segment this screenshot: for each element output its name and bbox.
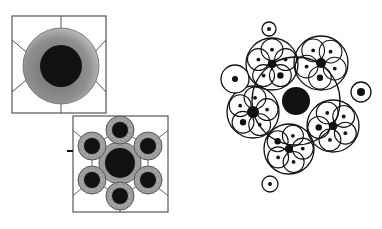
sub-market-dot	[253, 96, 257, 100]
sub-market-dot	[276, 155, 280, 159]
isolated-dot	[357, 88, 365, 96]
sub-market-dot	[256, 58, 260, 62]
sub-market-dot	[284, 58, 288, 62]
sub-market-dot	[258, 123, 262, 127]
top-square-panel	[12, 16, 106, 113]
central-dot	[282, 87, 310, 115]
isolated-dot	[267, 27, 271, 31]
sub-market-dot	[301, 147, 305, 151]
hex-group	[294, 36, 348, 90]
sub-market-dot	[265, 108, 269, 112]
sub-market-dot	[343, 131, 347, 135]
isolated-dot	[232, 76, 238, 82]
hex-group	[307, 100, 359, 152]
satellite-core-dot	[112, 188, 128, 204]
sub-market-dot	[262, 74, 266, 78]
sub-market-dot	[291, 134, 295, 138]
satellite-core-dot	[84, 138, 100, 154]
group-hub-dot	[247, 106, 259, 118]
satellite-core-dot	[84, 172, 100, 188]
center-core-dot	[105, 148, 135, 178]
sub-market-dot	[305, 65, 309, 69]
satellite-core-dot	[140, 138, 156, 154]
satellite-core-dot	[112, 122, 128, 138]
diagram-canvas	[0, 0, 382, 229]
circle-cluster-diagram	[221, 22, 371, 192]
sub-market-dot	[317, 75, 323, 81]
hex-group	[246, 38, 298, 90]
satellite-core-dot	[140, 172, 156, 188]
sub-market-dot	[277, 72, 283, 78]
sub-market-dot	[329, 50, 333, 54]
hex-group	[264, 124, 314, 174]
group-hub-dot	[268, 60, 276, 68]
sub-market-dot	[238, 104, 242, 108]
bottom-square-panel	[67, 116, 168, 212]
sub-market-dot	[274, 138, 280, 144]
group-hub-dot	[316, 58, 326, 68]
sub-market-dot	[316, 124, 322, 130]
group-hub-dot	[329, 122, 337, 130]
sub-market-dot	[342, 115, 346, 119]
sub-market-dot	[292, 160, 296, 164]
core-dot	[40, 45, 82, 87]
group-hub-dot	[285, 145, 293, 153]
sub-market-dot	[311, 48, 315, 52]
sub-market-dot	[328, 138, 332, 142]
sub-market-dot	[240, 119, 246, 125]
isolated-dot	[268, 182, 272, 186]
sub-market-dot	[270, 48, 274, 52]
sub-market-dot	[325, 111, 329, 115]
sub-market-dot	[333, 67, 337, 71]
